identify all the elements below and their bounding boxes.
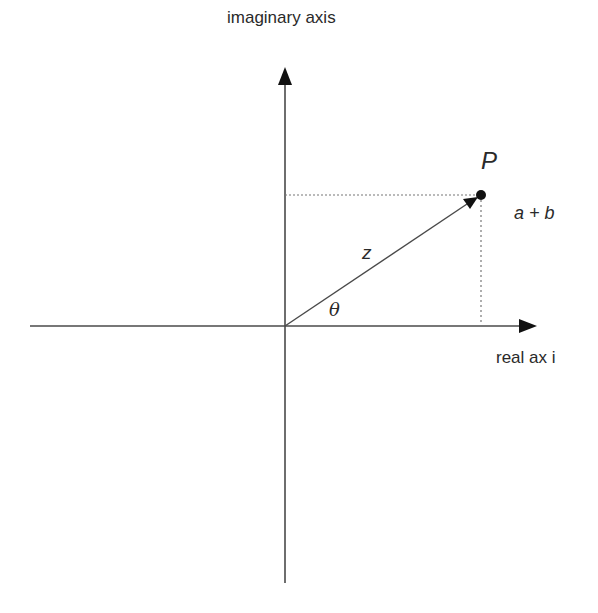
- imaginary-axis-arrowhead-icon: [278, 67, 292, 85]
- complex-plane-diagram: imaginary axis real ax i P a + b z θ: [0, 0, 598, 613]
- modulus-z-label: z: [362, 242, 372, 264]
- angle-theta-label: θ: [329, 299, 340, 320]
- vector-z-line: [285, 202, 470, 326]
- point-p-marker: [476, 190, 486, 200]
- diagram-canvas: [0, 0, 598, 613]
- imaginary-axis-label: imaginary axis: [227, 8, 336, 28]
- real-axis-arrowhead-icon: [519, 319, 537, 333]
- point-p-label: P: [481, 147, 497, 175]
- coordinates-label: a + b: [514, 203, 555, 224]
- real-axis-label: real ax i: [496, 348, 556, 368]
- vector-arrowhead-icon: [463, 197, 478, 209]
